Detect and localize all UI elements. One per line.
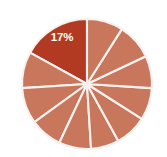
pie-slices-group xyxy=(22,19,152,149)
pie-labels-group: 17% xyxy=(51,31,73,43)
slice-label-17-percent: 17% xyxy=(51,31,73,43)
pie-chart-container: 17% xyxy=(0,0,167,157)
pie-chart-svg: 17% xyxy=(0,0,167,157)
